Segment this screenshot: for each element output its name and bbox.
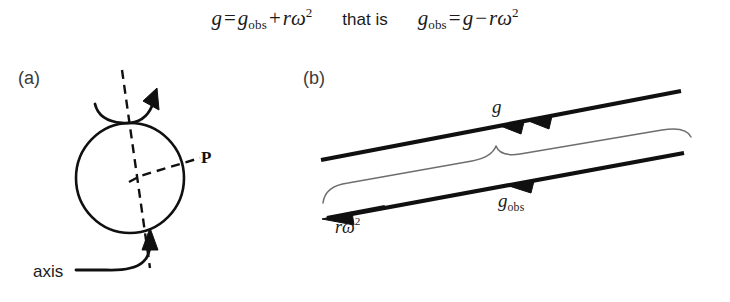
vector-label-romega-r: r bbox=[335, 217, 342, 237]
spin-arrow-curve bbox=[95, 104, 152, 123]
panel-a-drawing bbox=[76, 70, 200, 270]
physics-figure: g=gobs+rω2that isgobs=g−rω2 (a) (b) bbox=[0, 0, 730, 302]
vector-label-gobs-subscript: obs bbox=[508, 201, 525, 214]
vector-label-gobs: gobs bbox=[498, 190, 524, 212]
vector-label-g: g bbox=[492, 96, 502, 118]
vector-label-romega-omega: ω bbox=[342, 217, 355, 237]
axis-label: axis bbox=[33, 262, 63, 282]
figure-canvas bbox=[0, 0, 730, 302]
point-label-p: P bbox=[201, 148, 211, 168]
vector-label-romega-exponent: 2 bbox=[355, 215, 361, 227]
vector-label-romega: rω2 bbox=[335, 217, 360, 238]
sphere-outline bbox=[76, 123, 184, 233]
radius-dashed-line bbox=[129, 158, 200, 182]
axis-leader-curve bbox=[76, 244, 150, 270]
